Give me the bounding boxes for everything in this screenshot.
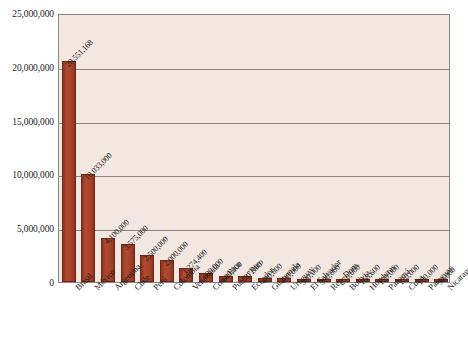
- x-category-label: El Salvador: [308, 285, 315, 292]
- y-axis: 05,000,00010,000,00015,000,00020,000,000…: [0, 0, 54, 345]
- y-tick-label: 15,000,000: [12, 117, 54, 127]
- bars-layer: [59, 15, 449, 282]
- x-category-label: Costa Rica: [210, 285, 217, 292]
- x-category-label: Colombia: [171, 285, 178, 292]
- x-category-label: Venezuela: [190, 285, 197, 292]
- x-category-label: Uruguay: [288, 285, 295, 292]
- x-category-label: Brasil: [73, 285, 80, 292]
- x-category-label: Paraguay: [426, 285, 433, 292]
- y-tick-label: 20,000,000: [12, 63, 54, 73]
- x-category-label: Argentina: [112, 285, 119, 292]
- plot-area: 20,551,16810,033,0004,100,0003,575,0002,…: [58, 14, 450, 283]
- bar: [81, 174, 95, 282]
- x-category-label: Cuba: [406, 285, 413, 292]
- x-category-label: Nicaragua: [445, 285, 452, 292]
- x-category-label: Puerto Rico: [230, 285, 237, 292]
- y-tick-label: 5,000,000: [17, 224, 54, 234]
- x-category-label: Panamá: [386, 285, 393, 292]
- x-category-label: Ecuador: [249, 285, 256, 292]
- x-category-label: Guatemala: [269, 285, 276, 292]
- y-tick-label: 10,000,000: [12, 170, 54, 180]
- bar-chart: 05,000,00010,000,00015,000,00020,000,000…: [0, 0, 468, 345]
- y-tick-label: 0: [49, 278, 54, 288]
- x-category-label: Bolivia: [347, 285, 354, 292]
- x-axis-category-labels: BrasilMéxicoArgentinaChilePerúColombiaVe…: [58, 285, 450, 345]
- bar: [62, 61, 76, 282]
- x-category-label: México: [92, 285, 99, 292]
- x-category-label: Chile: [132, 285, 139, 292]
- y-tick-label: 25,000,000: [12, 9, 54, 19]
- x-category-label: Rep. Dom.: [328, 285, 335, 292]
- x-category-label: Perú: [151, 285, 158, 292]
- plot-inner: [59, 15, 449, 282]
- x-category-label: Honduras: [367, 285, 374, 292]
